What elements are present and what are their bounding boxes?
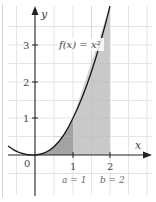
function-label: f(x) = x² (58, 39, 101, 50)
x-axis-label: x (135, 139, 142, 152)
function-plot-figure: y x 0 3 2 1 1 2 a = 1 b = 2 f(x) = x² (0, 0, 156, 202)
bound-label-a: a = 1 (62, 175, 86, 185)
y-tick-label-3: 3 (23, 40, 29, 51)
y-tick-label-2: 2 (23, 77, 29, 88)
y-axis-label: y (40, 8, 48, 21)
bound-label-b: b = 2 (100, 175, 125, 185)
x-tick-label-2: 2 (107, 161, 113, 172)
x-tick-label-1: 1 (70, 161, 76, 172)
y-tick-label-1: 1 (23, 113, 29, 124)
plot-canvas: y x 0 3 2 1 1 2 a = 1 b = 2 f(x) = x² (0, 0, 156, 202)
origin-label: 0 (24, 158, 30, 169)
y-axis-arrow-icon (32, 6, 39, 15)
